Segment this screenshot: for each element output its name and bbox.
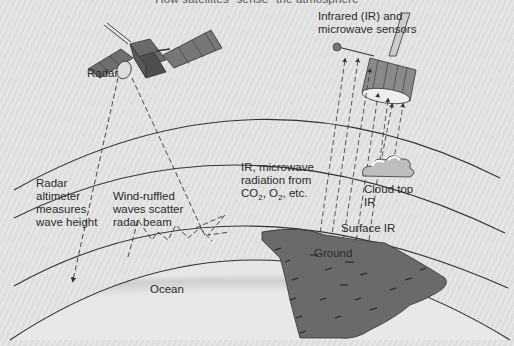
label-cloud-top-ir: Cloud top IR	[364, 183, 413, 209]
label-radar: Radar	[87, 67, 118, 80]
label-ground: Ground	[314, 247, 352, 260]
cloud-icon	[362, 156, 414, 177]
label-ir-microwave-radiation: IR, microwave radiation from CO2, O2, et…	[241, 161, 331, 204]
label-wind-ruffled-waves: Wind-ruffled waves scatter radar beam	[113, 190, 183, 229]
label-surface-ir: Surface IR	[341, 222, 395, 235]
label-ir-microwave-sensors: Infrared (IR) and microwave sensors	[318, 10, 416, 36]
label-ir-microwave-line1: IR, microwave	[241, 161, 331, 174]
label-radar-altimeter: Radar altimeter measures wave height	[36, 177, 97, 229]
label-ocean: Ocean	[150, 283, 184, 296]
scatter-reflected	[196, 215, 230, 235]
diagram-canvas: How satellites "sense" the atmosphere	[0, 0, 514, 346]
label-ir-microwave-line2: radiation from	[241, 174, 331, 187]
label-ir-microwave-gases: CO2, O2, etc.	[241, 187, 331, 204]
